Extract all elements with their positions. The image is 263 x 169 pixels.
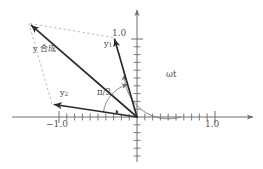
- vector-label-y2: y2: [60, 89, 68, 97]
- vector-label-y-resultant: y 合成: [33, 45, 56, 53]
- diagram-canvas: [0, 0, 263, 169]
- x-axis-tick-label-neg1: −1.0: [46, 120, 68, 129]
- construction-line-parallel-to-y1: [29, 23, 52, 104]
- vector-label-y1: y1: [104, 40, 112, 48]
- angle-label-omega-t: ωt: [166, 70, 176, 79]
- y-axis: [131, 10, 143, 162]
- angle-arcs: [103, 75, 181, 119]
- y-axis-tick-label-pos1: 1.0: [112, 29, 126, 38]
- vector-y-resultant: [31, 25, 137, 117]
- omega-t-arc: [124, 75, 181, 119]
- phasor-diagram-figure: −1.0 1.0 1.0 y1 y2 y 合成 π/3 ωt: [0, 0, 263, 169]
- angle-label-pi-over-3: π/3: [97, 88, 111, 97]
- vectors-group: [31, 25, 137, 117]
- x-axis-tick-label-pos1: 1.0: [205, 120, 219, 129]
